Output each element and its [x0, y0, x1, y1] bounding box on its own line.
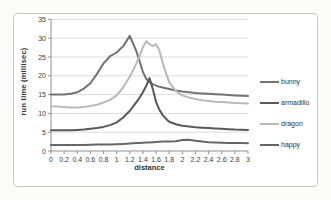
- y-tick-label-0: 0: [42, 148, 46, 155]
- x-tick-label-2.8: 2.8: [230, 156, 240, 163]
- legend-swatch-dragon: [260, 123, 279, 125]
- y-tick-label-25: 25: [38, 54, 46, 61]
- legend-label-dragon: dragon: [281, 120, 303, 127]
- legend-item-dragon: dragon: [260, 113, 309, 134]
- series-line-dragon: [51, 41, 248, 107]
- y-tick-label-15: 15: [38, 91, 46, 98]
- legend-item-happy: happy: [260, 134, 309, 155]
- x-tick-label-0.2: 0.2: [59, 156, 69, 163]
- legend-label-bunny: bunny: [281, 78, 300, 85]
- x-tick-label-3: 3: [246, 156, 250, 163]
- legend-label-happy: happy: [281, 141, 300, 148]
- y-tick-label-5: 5: [42, 129, 46, 136]
- x-tick-label-1.8: 1.8: [164, 156, 174, 163]
- legend-swatch-happy: [260, 144, 279, 146]
- x-tick-label-2: 2: [180, 156, 184, 163]
- legend-swatch-bunny: [260, 81, 279, 83]
- chart-frame: 0510152025303500.20.40.60.811.21.41.61.8…: [13, 13, 318, 187]
- x-tick-label-0.6: 0.6: [86, 156, 96, 163]
- x-tick-label-2.4: 2.4: [204, 156, 214, 163]
- legend-label-armadillo: armadillo: [281, 99, 309, 106]
- legend-item-armadillo: armadillo: [260, 92, 309, 113]
- x-tick-label-2.6: 2.6: [217, 156, 227, 163]
- x-tick-label-2.2: 2.2: [191, 156, 201, 163]
- x-axis-title: distance: [51, 163, 248, 172]
- x-tick-label-1.2: 1.2: [125, 156, 135, 163]
- x-tick-label-0.4: 0.4: [72, 156, 82, 163]
- x-tick-label-0: 0: [49, 156, 53, 163]
- x-tick-label-1.4: 1.4: [138, 156, 148, 163]
- legend-swatch-armadillo: [260, 102, 279, 104]
- y-tick-label-35: 35: [38, 16, 46, 23]
- y-tick-label-30: 30: [38, 35, 46, 42]
- x-tick-label-0.8: 0.8: [99, 156, 109, 163]
- y-tick-label-10: 10: [38, 110, 46, 117]
- x-tick-label-1.6: 1.6: [151, 156, 161, 163]
- x-tick-label-1: 1: [115, 156, 119, 163]
- series-line-happy: [51, 140, 248, 145]
- y-tick-label-20: 20: [38, 72, 46, 79]
- y-axis-title: run time (millisec): [19, 42, 28, 122]
- legend: bunny armadillo dragon happy: [260, 71, 309, 155]
- legend-item-bunny: bunny: [260, 71, 309, 92]
- series-line-armadillo: [51, 78, 248, 130]
